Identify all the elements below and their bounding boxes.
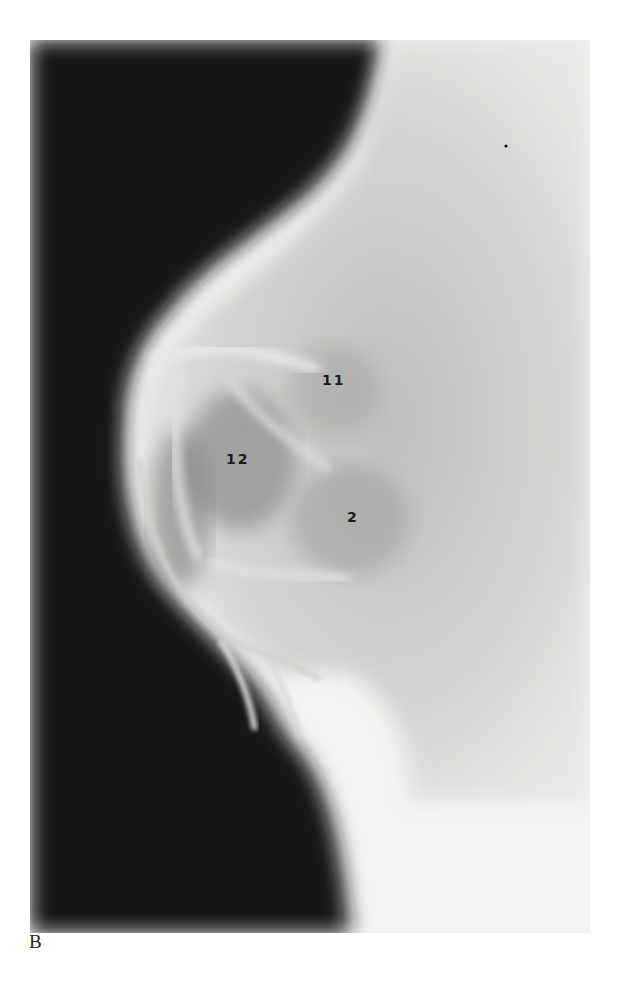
radiograph-rendering [30, 40, 590, 933]
label-2: 2 [347, 509, 359, 525]
label-12: 12 [226, 451, 249, 467]
label-11: 11 [322, 372, 345, 388]
panel-letter: B [29, 931, 42, 953]
radiograph-image: 11 12 2 [30, 40, 590, 933]
